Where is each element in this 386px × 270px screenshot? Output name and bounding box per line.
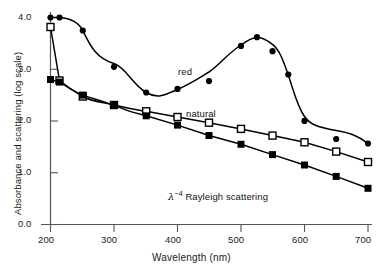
y-axis-title: Absorbance and scattering (log scale) [12, 52, 23, 215]
y-tick-label-4: 4.0 [18, 11, 32, 22]
x-tick-label-500: 500 [228, 234, 244, 245]
series-natural-line [51, 27, 369, 162]
lambda-exponent: −4 [174, 190, 182, 197]
x-tick-label-200: 200 [38, 234, 54, 245]
series-natural-markers [47, 24, 372, 166]
series-rayleigh-markers [47, 76, 372, 192]
x-axis-title: Wavelength (nm) [152, 252, 231, 263]
absorbance-scattering-chart: 4.0 3.0 2.0 1.0 0.0 200 300 400 500 600 … [0, 0, 386, 270]
curve-label-natural: natural [186, 108, 216, 119]
series-rayleigh [47, 76, 372, 192]
x-tick-marks [51, 225, 369, 233]
plot-canvas [0, 0, 386, 270]
x-tick-label-400: 400 [165, 234, 181, 245]
curve-label-red: red [178, 66, 192, 77]
y-tick-label-0: 0.0 [18, 218, 32, 229]
rayleigh-text: Rayleigh scattering [185, 191, 268, 202]
x-tick-label-600: 600 [292, 234, 308, 245]
x-tick-label-300: 300 [101, 234, 117, 245]
x-tick-label-700: 700 [355, 234, 371, 245]
curve-label-rayleigh: λ−4 Rayleigh scattering [168, 190, 268, 202]
series-natural [47, 24, 372, 166]
